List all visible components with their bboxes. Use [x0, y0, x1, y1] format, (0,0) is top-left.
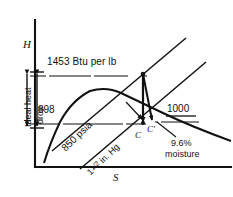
moisture-leader-line [157, 122, 176, 137]
enthalpy-actual-label: 1000 [167, 104, 189, 114]
diagram-vector-layer [0, 0, 233, 197]
x-axis-label: S [113, 172, 119, 183]
moisture-word-label: moisture [165, 150, 200, 159]
point-c-label: C [135, 131, 141, 140]
enthalpy-reference-lines [30, 76, 200, 124]
ideal-heat-drop-label: drop [36, 106, 45, 124]
ideal-heat-label: Ideal heat [24, 87, 33, 127]
saturation-curve [44, 89, 231, 163]
expansion-process-lines [126, 72, 152, 125]
moisture-percent-label: 9.6% [171, 139, 192, 148]
point-c-prime-label: C' [147, 125, 155, 134]
y-axis-label: H [23, 39, 31, 50]
mollier-diagram-figure: H S 1453 Btu per lb 898 1000 Ideal heat … [0, 0, 233, 197]
enthalpy-top-label: 1453 Btu per lb [47, 57, 116, 67]
